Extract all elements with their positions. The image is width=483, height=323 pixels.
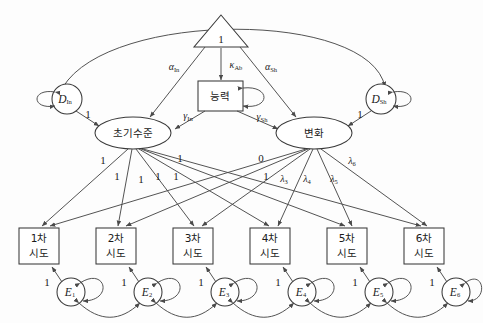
e6-loading-label: 1 xyxy=(429,276,435,288)
din-loading-label: 1 xyxy=(85,108,91,120)
covariance-arc-e3-e4 xyxy=(233,303,294,317)
e4-loading-label: 1 xyxy=(275,276,281,288)
slope-loading-edges xyxy=(50,149,427,226)
indicator-label-t6-line2: 시도 xyxy=(414,247,434,259)
covariance-arc-e5-e6 xyxy=(387,303,448,317)
indicator-label-t5-line1: 5차 xyxy=(339,232,356,244)
covariance-arc-e1-e2 xyxy=(79,303,140,317)
intercept-loading-label-6: 1 xyxy=(177,152,183,164)
edge-intercept-t2 xyxy=(118,149,132,226)
indicator-label-t2-line1: 2차 xyxy=(108,232,125,244)
dsh-loading-label: 1 xyxy=(357,108,363,120)
error-circles xyxy=(57,278,470,306)
slope-loading-label-1: 0 xyxy=(258,152,264,164)
indicator-label-t6-line1: 6차 xyxy=(416,232,433,244)
e3-loading-label: 1 xyxy=(198,276,204,288)
diagram-canvas: 1 능력 초기수준 변화 1차 시도 2차 시도 3차 시도 4차 시도 5차 … xyxy=(0,0,483,323)
e1-loading-label: 1 xyxy=(44,276,50,288)
slope-loading-label-6: λ6 xyxy=(347,155,356,167)
covariance-arc-e4-e5 xyxy=(310,303,371,317)
edge-intercept-t5 xyxy=(141,149,345,226)
intercept-loading-edges xyxy=(42,149,421,226)
path-label-gamma-in: γIn xyxy=(183,110,193,122)
e5-loading-label: 1 xyxy=(352,276,358,288)
edge-slope-t6 xyxy=(321,149,427,226)
constant-label: 1 xyxy=(218,33,224,45)
edge-e3-t3 xyxy=(206,267,216,282)
error-covariance-arcs xyxy=(79,303,448,317)
indicator-label-t1-line2: 시도 xyxy=(29,247,49,259)
indicator-label-t4-line2: 시도 xyxy=(260,247,280,259)
edge-intercept-t6 xyxy=(143,149,421,226)
slope-loading-label-2: 1 xyxy=(263,170,269,182)
indicator-label-t2-line2: 시도 xyxy=(106,247,126,259)
intercept-loading-label-5: 1 xyxy=(173,170,179,182)
edge-e6-t6 xyxy=(437,267,447,282)
factor-slope-label: 변화 xyxy=(304,127,324,139)
path-label-alpha-in: αIn xyxy=(169,61,180,73)
slope-loading-label-3: λ3 xyxy=(279,173,288,185)
indicator-boxes xyxy=(19,228,444,264)
intercept-loading-label-4: 1 xyxy=(155,170,161,182)
e2-loading-label: 1 xyxy=(121,276,127,288)
indicator-label-t1-line1: 1차 xyxy=(31,232,48,244)
edge-intercept-t1 xyxy=(42,149,128,226)
edge-constant-intercept xyxy=(150,47,205,117)
ability-self-loop xyxy=(243,88,264,107)
edge-intercept-t4 xyxy=(139,149,269,226)
edge-e5-t5 xyxy=(360,267,370,282)
error-loading-edges xyxy=(52,267,447,282)
intercept-loading-label-1: 1 xyxy=(100,154,106,166)
sem-path-diagram: 1 능력 초기수준 변화 1차 시도 2차 시도 3차 시도 4차 시도 5차 … xyxy=(0,0,483,323)
intercept-loading-label-3: 1 xyxy=(138,173,144,185)
factor-intercept-label: 초기수준 xyxy=(113,127,153,139)
indicator-label-t3-line1: 3차 xyxy=(185,232,202,244)
indicator-label-t3-line2: 시도 xyxy=(183,247,203,259)
covariance-arc-e2-e3 xyxy=(156,303,217,317)
path-label-alpha-sh: αSh xyxy=(265,61,278,73)
edge-e1-t1 xyxy=(52,267,62,282)
edge-e4-t4 xyxy=(283,267,293,282)
indicator-label-t4-line1: 4차 xyxy=(262,232,279,244)
edge-slope-t5 xyxy=(317,149,352,226)
path-label-kappa-ab: κAb xyxy=(230,59,243,71)
intercept-loading-label-2: 1 xyxy=(114,170,120,182)
ability-label: 능력 xyxy=(210,90,230,102)
path-label-gamma-sh: γSh xyxy=(257,111,269,123)
indicator-label-t5-line2: 시도 xyxy=(337,247,357,259)
slope-loading-label-5: λ5 xyxy=(329,173,338,185)
edge-e2-t2 xyxy=(129,267,139,282)
slope-loading-label-4: λ4 xyxy=(302,173,311,185)
